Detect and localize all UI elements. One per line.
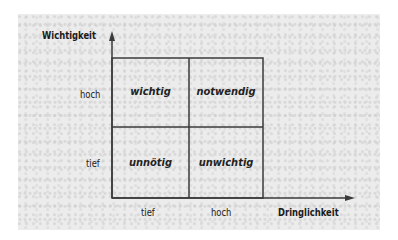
cell-notwendig: notwendig (189, 85, 263, 98)
matrix-border (112, 58, 263, 198)
x-axis-title: Dringlichkeit (278, 206, 339, 219)
x-tick-high: hoch (211, 206, 231, 219)
cell-unwichtig: unwichtig (189, 156, 263, 169)
cell-unnoetig: unnötig (112, 156, 189, 169)
y-tick-low: tief (86, 157, 100, 170)
x-axis-arrow-icon (345, 195, 355, 201)
y-axis-title: Wichtigkeit (42, 29, 96, 42)
x-tick-low: tief (141, 206, 155, 219)
y-axis-arrow-icon (109, 31, 115, 41)
y-tick-high: hoch (80, 88, 100, 101)
cell-wichtig: wichtig (112, 85, 189, 98)
